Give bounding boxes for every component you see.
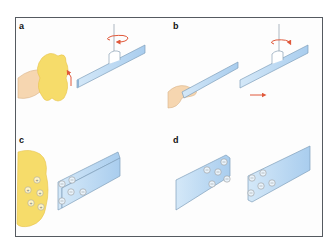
panel-d-right-strip — [248, 146, 310, 202]
svg-text:+: + — [30, 200, 33, 206]
panel-a-hand-with-cloth — [18, 53, 68, 101]
svg-text:+: + — [36, 177, 39, 183]
panel-b-hand-with-strip — [168, 62, 238, 108]
svg-text:+: + — [27, 187, 30, 193]
panel-b-suspended-strip — [240, 24, 308, 95]
illustration: + + + + + — [0, 0, 336, 243]
svg-text:+: + — [39, 190, 42, 196]
panel-c-strip — [58, 152, 120, 210]
arrow-icon — [68, 72, 71, 86]
panel-c-cloth — [17, 150, 48, 226]
panel-a-suspended-strip — [77, 24, 145, 88]
svg-text:+: + — [40, 204, 43, 210]
